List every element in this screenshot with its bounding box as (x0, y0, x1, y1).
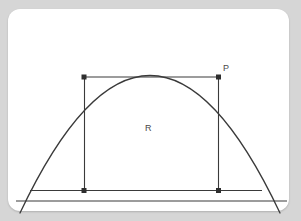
vertex-dot-bottom-left (82, 188, 87, 193)
vertex-dot-top-left (82, 75, 87, 80)
vertex-dot-top-right (216, 75, 221, 80)
screenshot-stage: P R (0, 0, 301, 221)
parabola-curve (20, 76, 280, 214)
parabola-rectangle-figure (0, 0, 301, 221)
region-label-r: R (145, 124, 152, 133)
vertex-dot-bottom-right (216, 188, 221, 193)
point-label-p: P (223, 64, 229, 73)
